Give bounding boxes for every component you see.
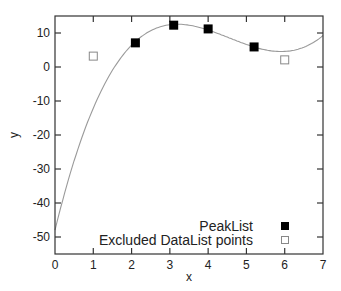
y-tick-label: -30 [33,162,51,176]
y-axis: 100-10-20-30-40-50 [33,26,323,244]
open-square-icon [282,237,289,244]
legend-label-excluded: Excluded DataList points [99,232,253,248]
x-tick-label: 0 [52,258,59,272]
x-tick-label: 7 [320,258,327,272]
peak-point [204,24,213,33]
y-axis-label: y [7,132,21,138]
y-tick-label: -40 [33,196,51,210]
y-tick-label: 0 [43,60,50,74]
legend: PeakList Excluded DataList points [99,218,289,248]
y-tick-label: 10 [37,26,51,40]
filled-square-icon [281,222,289,230]
x-tick-label: 2 [128,258,135,272]
data-points [89,21,288,64]
excluded-point [89,52,97,60]
chart: 01234567 100-10-20-30-40-50 x y PeakList… [0,0,341,291]
y-tick-label: -10 [33,94,51,108]
y-tick-label: -20 [33,128,51,142]
x-tick-label: 3 [167,258,174,272]
y-tick-label: -50 [33,230,51,244]
x-tick-label: 4 [205,258,212,272]
peak-point [131,38,140,47]
x-tick-label: 6 [281,258,288,272]
x-tick-label: 5 [243,258,250,272]
peak-point [250,42,259,51]
x-axis-label: x [186,270,192,284]
peak-point [169,21,178,30]
x-tick-label: 1 [90,258,97,272]
excluded-point [281,56,289,64]
